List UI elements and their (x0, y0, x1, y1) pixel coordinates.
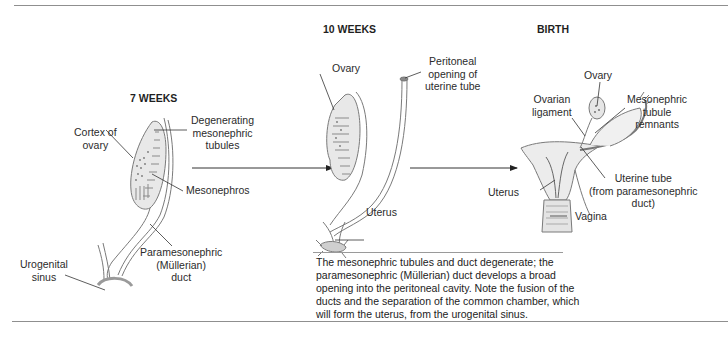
label-cortex-of-ovary: Cortex of ovary (74, 126, 117, 151)
label-peritoneal-opening: Peritoneal opening of uterine tube (425, 55, 480, 93)
label-ovarian-ligament: Ovarian ligament (532, 93, 572, 118)
caption-rule (313, 252, 563, 253)
stage-title-7-weeks: 7 WEEKS (130, 92, 177, 104)
stage-title-birth: BIRTH (537, 23, 569, 35)
label-uterine-tube: Uterine tube (from paramesonephric duct) (589, 172, 698, 210)
stage-title-10-weeks: 10 WEEKS (323, 23, 376, 35)
label-mesonephros: Mesonephros (186, 184, 250, 197)
label-ovary-birth: Ovary (584, 69, 612, 82)
label-urogenital-sinus: Urogenital sinus (20, 258, 68, 283)
label-uterus-birth: Uterus (488, 186, 519, 199)
label-uterus-10w: Uterus (366, 206, 397, 219)
figure-caption: The mesonephric tubules and duct degener… (316, 256, 586, 321)
label-ovary-10w: Ovary (332, 62, 360, 75)
label-paramesonephric-duct: Paramesonephric (Müllerian) duct (140, 246, 222, 284)
label-vagina: Vagina (575, 210, 607, 223)
label-mesonephric-remnants: Mesonephric tubule remnants (627, 93, 687, 131)
label-degenerating-tubules: Degenerating mesonephric tubules (191, 114, 254, 152)
